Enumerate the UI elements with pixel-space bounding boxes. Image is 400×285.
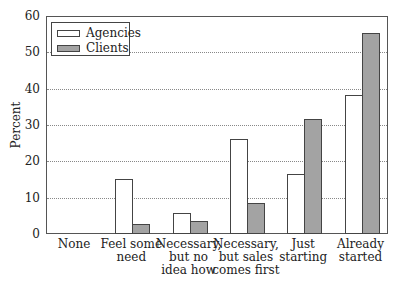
bar-agencies xyxy=(173,213,191,234)
gridline xyxy=(47,161,387,162)
bar-chart: Percent 0102030405060 NoneFeel someneedN… xyxy=(0,0,400,285)
legend-item-clients: Clients xyxy=(57,41,129,55)
bar-clients xyxy=(190,221,208,234)
bar-clients xyxy=(304,119,322,234)
bar-clients xyxy=(362,33,380,234)
bar-agencies xyxy=(230,139,248,234)
legend-label-clients: Clients xyxy=(86,41,129,55)
y-tick-label: 0 xyxy=(10,228,40,240)
bar-agencies xyxy=(115,179,133,235)
legend-swatch-clients xyxy=(57,45,80,52)
y-tick-label: 20 xyxy=(10,155,40,167)
gridline xyxy=(47,198,387,199)
gridline xyxy=(47,89,387,90)
gridline xyxy=(47,125,387,126)
bar-clients xyxy=(247,203,265,234)
bar-agencies xyxy=(345,95,363,234)
legend-swatch-agencies xyxy=(57,30,80,37)
y-tick-label: 30 xyxy=(10,119,40,131)
y-tick-label: 60 xyxy=(10,10,40,22)
legend-label-agencies: Agencies xyxy=(86,26,141,40)
legend: Agencies Clients xyxy=(51,22,130,56)
y-tick-label: 50 xyxy=(10,46,40,58)
bar-clients xyxy=(132,224,150,234)
legend-item-agencies: Agencies xyxy=(57,26,141,40)
bar-agencies xyxy=(287,174,305,234)
y-tick-label: 40 xyxy=(10,83,40,95)
y-tick-label: 10 xyxy=(10,192,40,204)
x-tick-label: Alreadystarted xyxy=(326,238,396,264)
